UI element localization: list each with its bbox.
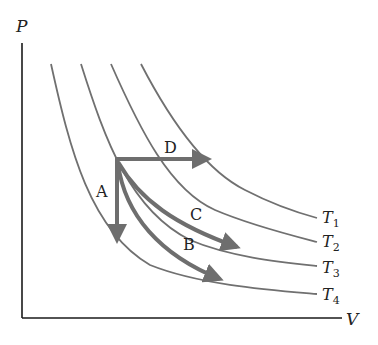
v-axis-label: V (346, 309, 360, 329)
isotherm-label-t4: T4 (322, 285, 340, 307)
process-label-a: A (95, 182, 108, 201)
isotherm-label-t1: T1 (322, 208, 340, 230)
isotherm-t2 (111, 64, 317, 242)
process-label-b: B (183, 235, 195, 254)
process-label-d: D (164, 138, 177, 157)
isotherm-label-t3: T3 (322, 258, 340, 280)
pv-diagram: P V T1 T2 T3 T4 D A C B (0, 0, 378, 345)
isotherm-label-t2: T2 (322, 232, 340, 254)
process-label-c: C (190, 205, 202, 224)
p-axis-label: P (15, 16, 28, 36)
process-c-arrow (118, 162, 237, 247)
pv-diagram-canvas: P V T1 T2 T3 T4 D A C B (0, 0, 378, 345)
